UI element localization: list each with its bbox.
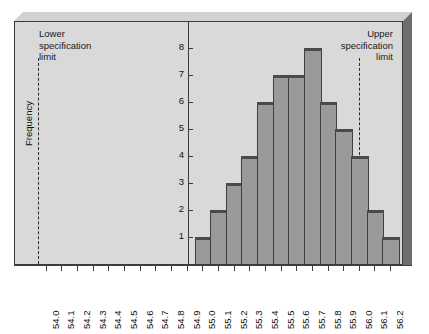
x-axis-tick xyxy=(312,266,313,271)
x-axis-tick xyxy=(328,266,329,271)
histogram-bar-top-edge xyxy=(335,129,353,132)
x-axis-tick xyxy=(155,266,156,271)
x-axis-tick xyxy=(108,266,109,271)
x-axis-tick xyxy=(390,266,391,271)
histogram-bar xyxy=(382,237,400,264)
x-axis-tick xyxy=(234,266,235,271)
x-axis-tick xyxy=(281,266,282,271)
x-axis-tick-label: 54.5 xyxy=(128,311,139,330)
x-axis-tick xyxy=(46,266,47,271)
x-axis-tick-label: 55.6 xyxy=(300,311,311,330)
x-axis-tick-label: 55.2 xyxy=(238,311,249,330)
histogram-bar-top-edge xyxy=(351,156,369,159)
x-axis-tick-label: 56.1 xyxy=(378,311,389,330)
x-axis-tick xyxy=(61,266,62,271)
frame-top-bevel xyxy=(14,12,412,21)
x-axis-tick xyxy=(77,266,78,271)
x-axis-tick xyxy=(218,266,219,271)
x-axis-tick xyxy=(187,266,188,271)
x-axis-tick-label: 54.6 xyxy=(144,311,155,330)
frame-right-bevel xyxy=(403,12,412,265)
x-axis-tick-label: 55.3 xyxy=(253,311,264,330)
x-axis-tick xyxy=(343,266,344,271)
x-axis-tick xyxy=(93,266,94,271)
x-axis-tick-label: 56.2 xyxy=(394,311,405,330)
x-axis-tick-label: 55.4 xyxy=(269,311,280,330)
histogram-bar-top-edge xyxy=(320,102,338,105)
histogram-bar-top-edge xyxy=(304,48,322,51)
x-axis-tick-label: 55.0 xyxy=(206,311,217,330)
x-axis-tick-label: 54.0 xyxy=(50,311,61,330)
x-axis-tick xyxy=(171,266,172,271)
x-axis-tick-label: 54.8 xyxy=(175,311,186,330)
x-axis-tick xyxy=(202,266,203,271)
x-axis-tick-label: 55.8 xyxy=(332,311,343,330)
x-axis-tick-label: 54.4 xyxy=(112,311,123,330)
histogram-bar-top-edge xyxy=(382,237,400,240)
x-axis-tick xyxy=(265,266,266,271)
plot-panel: Lower specification limit Upper specific… xyxy=(15,22,402,264)
x-axis-tick-label: 54.3 xyxy=(97,311,108,330)
histogram-bars xyxy=(15,22,402,264)
x-axis-tick-label: 54.7 xyxy=(159,311,170,330)
x-axis-tick-label: 54.9 xyxy=(191,311,202,330)
x-axis-tick-label: 54.2 xyxy=(81,311,92,330)
histogram-plot: Lower specification limit Upper specific… xyxy=(14,21,403,265)
x-axis-tick xyxy=(296,266,297,271)
x-axis-tick xyxy=(359,266,360,271)
x-axis-tick-label: 54.1 xyxy=(65,311,76,330)
x-axis-line xyxy=(14,265,412,266)
x-axis-tick xyxy=(249,266,250,271)
x-axis-tick-label: 55.7 xyxy=(316,311,327,330)
x-axis-tick xyxy=(124,266,125,271)
x-axis-tick xyxy=(374,266,375,271)
x-axis-tick-label: 55.5 xyxy=(285,311,296,330)
x-axis-tick xyxy=(140,266,141,271)
histogram-bar-top-edge xyxy=(367,210,385,213)
x-axis-tick-label: 55.9 xyxy=(347,311,358,330)
x-axis-tick-label: 56.0 xyxy=(363,311,374,330)
x-axis-tick-label: 55.1 xyxy=(222,311,233,330)
chart-frame: Lower specification limit Upper specific… xyxy=(14,12,412,265)
